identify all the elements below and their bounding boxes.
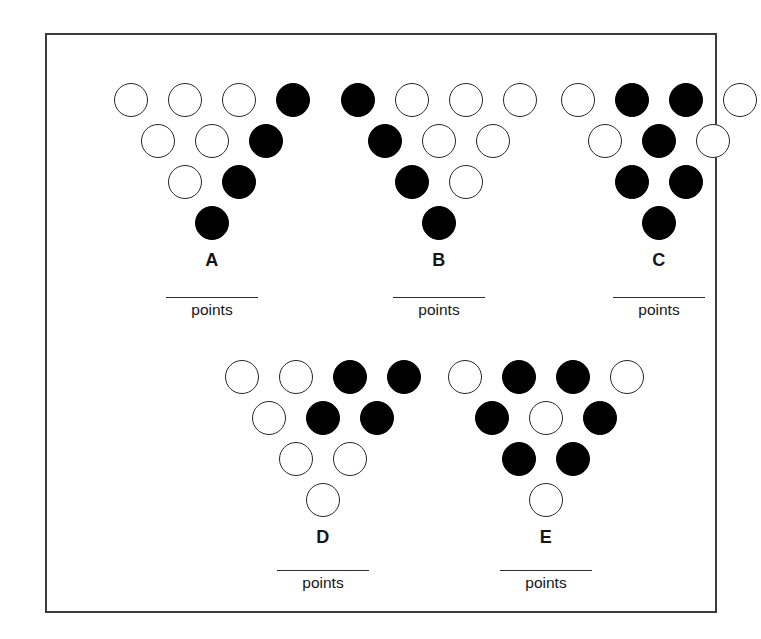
pin-row (324, 83, 554, 117)
open-circle[interactable] (449, 83, 483, 117)
open-circle[interactable] (114, 83, 148, 117)
figure-group-d: D (208, 360, 438, 548)
pin-row (97, 124, 327, 158)
pin-triangle-b (324, 83, 554, 240)
filled-circle[interactable] (195, 206, 229, 240)
worksheet-frame: A points B points C points D points E po… (45, 33, 717, 613)
open-circle[interactable] (195, 124, 229, 158)
open-circle[interactable] (561, 83, 595, 117)
pin-row (544, 165, 761, 199)
pin-row (324, 124, 554, 158)
filled-circle[interactable] (502, 360, 536, 394)
open-circle[interactable] (225, 360, 259, 394)
answer-block-c: points (544, 297, 761, 320)
pin-row (324, 165, 554, 199)
pin-row (208, 401, 438, 435)
open-circle[interactable] (395, 83, 429, 117)
points-label-e: points (431, 574, 661, 593)
answer-blank-a[interactable] (166, 297, 258, 298)
open-circle[interactable] (279, 360, 313, 394)
open-circle[interactable] (252, 401, 286, 435)
answer-block-e: points (431, 570, 661, 593)
open-circle[interactable] (222, 83, 256, 117)
pin-row (324, 206, 554, 240)
open-circle[interactable] (279, 442, 313, 476)
filled-circle[interactable] (333, 360, 367, 394)
answer-block-d: points (208, 570, 438, 593)
figure-label-c: C (544, 250, 761, 271)
open-circle[interactable] (503, 83, 537, 117)
open-circle[interactable] (141, 124, 175, 158)
open-circle[interactable] (610, 360, 644, 394)
pin-row (431, 401, 661, 435)
filled-circle[interactable] (615, 165, 649, 199)
pin-row (208, 442, 438, 476)
pin-row (544, 124, 761, 158)
pin-row (544, 206, 761, 240)
figure-label-e: E (431, 527, 661, 548)
filled-circle[interactable] (422, 206, 456, 240)
pin-triangle-c (544, 83, 761, 240)
filled-circle[interactable] (276, 83, 310, 117)
answer-blank-c[interactable] (613, 297, 705, 298)
filled-circle[interactable] (341, 83, 375, 117)
filled-circle[interactable] (583, 401, 617, 435)
answer-blank-b[interactable] (393, 297, 485, 298)
points-label-a: points (97, 301, 327, 320)
filled-circle[interactable] (642, 206, 676, 240)
open-circle[interactable] (476, 124, 510, 158)
pin-row (431, 360, 661, 394)
open-circle[interactable] (588, 124, 622, 158)
pin-triangle-a (97, 83, 327, 240)
filled-circle[interactable] (669, 83, 703, 117)
figure-label-b: B (324, 250, 554, 271)
open-circle[interactable] (333, 442, 367, 476)
answer-block-b: points (324, 297, 554, 320)
pin-row (544, 83, 761, 117)
open-circle[interactable] (306, 483, 340, 517)
filled-circle[interactable] (222, 165, 256, 199)
answer-blank-e[interactable] (500, 570, 592, 571)
figure-label-a: A (97, 250, 327, 271)
open-circle[interactable] (168, 165, 202, 199)
points-label-b: points (324, 301, 554, 320)
filled-circle[interactable] (249, 124, 283, 158)
pin-row (431, 442, 661, 476)
filled-circle[interactable] (615, 83, 649, 117)
filled-circle[interactable] (360, 401, 394, 435)
points-label-c: points (544, 301, 761, 320)
filled-circle[interactable] (556, 360, 590, 394)
open-circle[interactable] (449, 165, 483, 199)
answer-blank-d[interactable] (277, 570, 369, 571)
open-circle[interactable] (529, 483, 563, 517)
filled-circle[interactable] (556, 442, 590, 476)
points-label-d: points (208, 574, 438, 593)
open-circle[interactable] (723, 83, 757, 117)
answer-block-a: points (97, 297, 327, 320)
figure-label-d: D (208, 527, 438, 548)
pin-triangle-d (208, 360, 438, 517)
pin-row (97, 165, 327, 199)
filled-circle[interactable] (475, 401, 509, 435)
pin-triangle-e (431, 360, 661, 517)
open-circle[interactable] (422, 124, 456, 158)
pin-row (97, 83, 327, 117)
pin-row (208, 360, 438, 394)
figure-group-a: A (97, 83, 327, 271)
pin-row (431, 483, 661, 517)
filled-circle[interactable] (669, 165, 703, 199)
pin-row (208, 483, 438, 517)
figure-group-c: C (544, 83, 761, 271)
filled-circle[interactable] (368, 124, 402, 158)
open-circle[interactable] (696, 124, 730, 158)
open-circle[interactable] (448, 360, 482, 394)
pin-row (97, 206, 327, 240)
filled-circle[interactable] (502, 442, 536, 476)
filled-circle[interactable] (395, 165, 429, 199)
open-circle[interactable] (529, 401, 563, 435)
filled-circle[interactable] (642, 124, 676, 158)
filled-circle[interactable] (387, 360, 421, 394)
figure-group-b: B (324, 83, 554, 271)
filled-circle[interactable] (306, 401, 340, 435)
open-circle[interactable] (168, 83, 202, 117)
